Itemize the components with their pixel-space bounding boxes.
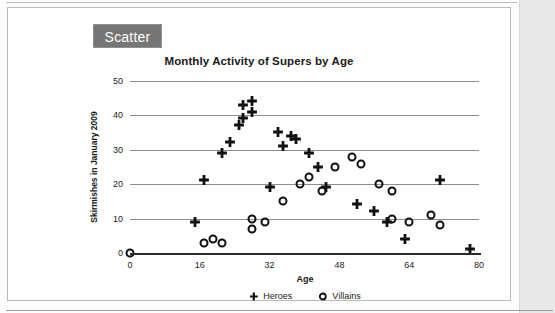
data-point-villains — [248, 224, 257, 233]
circle-marker-icon — [318, 292, 327, 301]
data-point-villains — [357, 159, 366, 168]
y-axis-tick-label: 40 — [113, 110, 123, 120]
data-point-heroes — [264, 179, 275, 190]
plus-marker-icon — [249, 292, 258, 301]
x-axis-line — [130, 253, 481, 255]
legend-label-heroes: Heroes — [263, 291, 292, 301]
gridline — [130, 81, 479, 82]
data-point-heroes — [312, 158, 323, 169]
x-axis-tick-label: 80 — [474, 260, 484, 270]
page-bottom-rule — [6, 310, 553, 311]
data-point-heroes — [465, 241, 476, 252]
data-point-villains — [278, 197, 287, 206]
data-point-villains — [348, 152, 357, 161]
chart-type-tab-scatter[interactable]: Scatter — [93, 24, 162, 48]
gridline — [130, 219, 479, 220]
data-point-villains — [435, 221, 444, 230]
data-point-villains — [208, 235, 217, 244]
legend-label-villains: Villains — [332, 291, 360, 301]
data-point-villains — [304, 173, 313, 182]
data-point-villains — [317, 187, 326, 196]
data-point-villains — [261, 218, 270, 227]
y-axis-tick-label: 10 — [113, 214, 123, 224]
data-point-villains — [374, 180, 383, 189]
figure-frame: Scatter Monthly Activity of Supers by Ag… — [7, 7, 511, 301]
data-point-heroes — [303, 144, 314, 155]
data-point-heroes — [351, 196, 362, 207]
chart-title: Monthly Activity of Supers by Age — [8, 55, 510, 67]
data-point-heroes — [199, 172, 210, 183]
data-point-heroes — [290, 131, 301, 142]
data-point-heroes — [369, 203, 380, 214]
data-point-villains — [200, 238, 209, 247]
y-axis-tick-label: 50 — [113, 76, 123, 86]
x-axis-tick-label: 48 — [334, 260, 344, 270]
legend-item-heroes: Heroes — [249, 291, 292, 301]
page-top-rule — [6, 2, 517, 3]
data-point-villains — [331, 163, 340, 172]
x-axis-tick-label: 32 — [265, 260, 275, 270]
gridline — [130, 115, 479, 116]
data-point-heroes — [190, 213, 201, 224]
x-axis-tick-label: 16 — [195, 260, 205, 270]
x-axis-label: Age — [296, 274, 313, 284]
data-point-villains — [405, 218, 414, 227]
plot-area: 01020304050 — [130, 81, 479, 253]
x-axis-tick-label: 0 — [127, 260, 132, 270]
data-point-villains — [296, 180, 305, 189]
data-point-villains — [387, 187, 396, 196]
y-axis-tick-label: 20 — [113, 179, 123, 189]
scanned-page: Scatter Monthly Activity of Supers by Ag… — [0, 0, 555, 313]
y-axis-tick-label: 30 — [113, 145, 123, 155]
y-axis-label: Skirmishes in January 2009 — [89, 111, 99, 223]
chart-legend: Heroes Villains — [249, 291, 360, 301]
page-right-margin-strip — [519, 0, 555, 313]
y-axis-tick-label: 0 — [118, 248, 123, 258]
legend-item-villains: Villains — [318, 291, 360, 301]
data-point-heroes — [399, 230, 410, 241]
data-point-villains — [427, 211, 436, 220]
data-point-villains — [217, 238, 226, 247]
data-point-villains — [248, 214, 257, 223]
x-axis-tick-label: 64 — [404, 260, 414, 270]
data-point-villains — [387, 214, 396, 223]
data-point-heroes — [434, 172, 445, 183]
data-point-heroes — [247, 93, 258, 104]
data-point-heroes — [225, 134, 236, 145]
data-point-heroes — [273, 124, 284, 135]
